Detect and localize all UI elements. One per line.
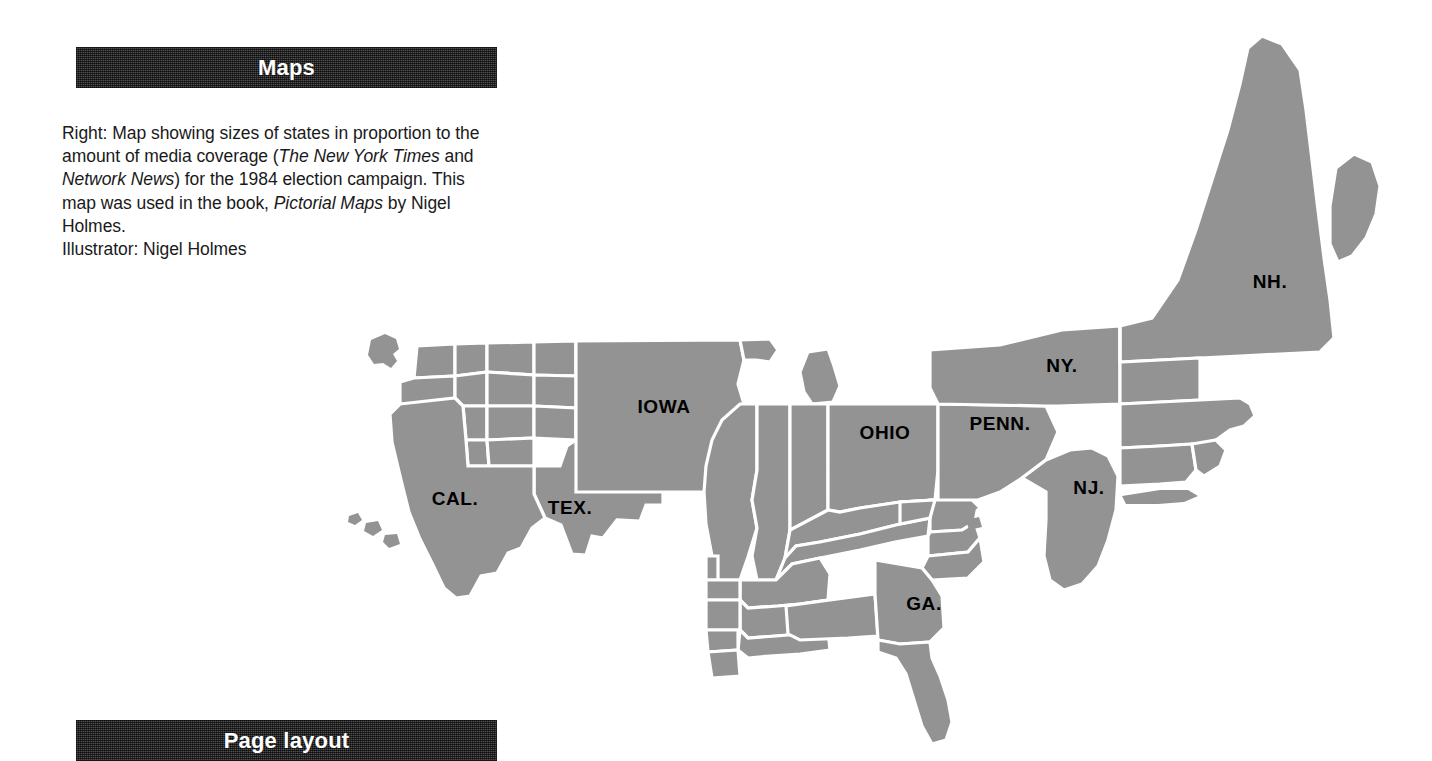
state-shape-wyoming — [534, 341, 576, 376]
map-label-ny: NY. — [1046, 355, 1077, 376]
state-shape-rhode-island — [1192, 440, 1226, 476]
state-shape-missouri — [704, 404, 757, 580]
caption-line-1: Right: Map showing sizes of states in pr… — [62, 123, 450, 143]
map-label-ohio: OHIO — [860, 422, 911, 443]
state-shape-new-hampshire — [1120, 36, 1334, 362]
map-label-nh: NH. — [1253, 271, 1288, 292]
state-shape-dc — [966, 517, 982, 530]
state-shape-idaho — [455, 343, 487, 376]
caption-illustrator: Illustrator: Nigel Holmes — [62, 239, 247, 259]
state-shape-michigan — [800, 349, 840, 404]
state-shape-connecticut — [1120, 444, 1196, 486]
state-shape-ohio — [828, 404, 938, 512]
state-shape-minnesota — [601, 341, 632, 374]
state-shape-mississippi — [740, 600, 828, 638]
state-shape-new-mexico-lower — [487, 438, 534, 466]
state-shape-nevada — [455, 372, 487, 406]
caption-line-3-rest: ) for the 1984 election campaign. — [174, 169, 427, 189]
caption-line-3-and: and — [444, 146, 473, 166]
state-shape-arkansas — [740, 558, 830, 608]
state-shape-wisconsin — [740, 339, 778, 362]
state-shape-maryland — [943, 508, 962, 522]
state-shape-indiana — [790, 404, 828, 530]
state-shape-arizona-lower — [466, 440, 489, 466]
state-shape-new-york — [930, 326, 1120, 406]
caption-line-4-rest: by — [383, 193, 406, 213]
state-shape-oregon — [400, 376, 455, 404]
state-shape-lower-left-box-3 — [706, 600, 740, 630]
state-shape-iowa — [576, 340, 744, 492]
state-shape-alabama — [786, 594, 878, 640]
state-shape-new-mexico — [487, 406, 534, 440]
state-shape-lower-left-box-2 — [706, 580, 740, 600]
state-shape-georgia — [875, 560, 944, 644]
state-shape-long-island — [1122, 490, 1198, 504]
state-shape-hawaii-2 — [364, 521, 382, 536]
state-shape-colorado — [534, 375, 576, 408]
state-shape-north-carolina — [928, 522, 980, 556]
state-shape-south-carolina — [922, 538, 984, 580]
state-shape-florida — [878, 640, 952, 744]
state-shape-kentucky — [785, 500, 935, 558]
state-shape-vermont — [1120, 326, 1200, 404]
state-shape-lower-left-box-1 — [706, 556, 718, 580]
state-shape-pennsylvania — [938, 404, 1058, 500]
map-label-penn: PENN. — [969, 413, 1030, 434]
state-shape-lower-left-box-4 — [706, 630, 738, 652]
state-shape-oklahoma — [534, 406, 576, 440]
state-shape-texas — [534, 408, 663, 555]
map-label-iowa: IOWA — [637, 396, 690, 417]
map-label-ga: GA. — [906, 593, 942, 614]
state-shape-tennessee — [776, 518, 930, 580]
state-shape-maine — [1330, 154, 1380, 262]
caption-nyt-italic: The New York Times — [279, 146, 440, 166]
state-shape-montana — [487, 342, 534, 375]
state-shape-delaware — [957, 500, 978, 515]
state-shape-alaska — [368, 334, 399, 368]
state-shape-utah — [487, 372, 534, 406]
state-shape-arizona — [463, 406, 487, 440]
map-label-nj: NJ. — [1073, 477, 1104, 498]
state-shape-north-dakota — [576, 341, 601, 376]
state-shape-virginia — [930, 498, 978, 532]
caption-pictorial-maps-italic: Pictorial Maps — [274, 193, 383, 213]
state-shape-hawaii-3 — [383, 534, 400, 548]
map-caption: Right: Map showing sizes of states in pr… — [62, 122, 502, 261]
state-shape-louisiana — [738, 630, 830, 658]
state-shape-new-jersey — [1022, 448, 1118, 590]
maps-section-bar: Maps — [76, 47, 497, 88]
maps-section-title: Maps — [258, 57, 315, 79]
map-label-cal: CAL. — [432, 488, 479, 509]
map-label-tex: TEX. — [548, 497, 593, 518]
state-shape-washington — [414, 344, 455, 378]
state-shape-west-virginia — [900, 500, 935, 524]
state-shape-illinois — [752, 404, 790, 580]
page-layout-section-title: Page layout — [224, 730, 350, 752]
state-shape-lower-left-box-5 — [708, 650, 740, 678]
state-shape-california — [390, 398, 545, 598]
state-shape-hawaii-1 — [348, 513, 362, 525]
state-shape-massachusetts — [1120, 398, 1255, 448]
page-layout-section-bar: Page layout — [76, 720, 497, 761]
caption-network-news-italic: Network News — [62, 169, 174, 189]
